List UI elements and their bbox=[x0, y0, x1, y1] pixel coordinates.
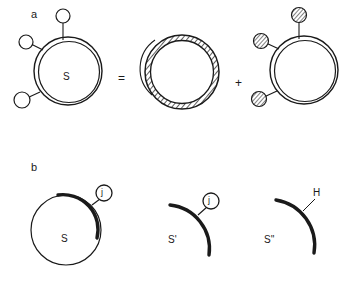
equals-sign: = bbox=[118, 72, 125, 84]
panel-letter-b: b bbox=[31, 162, 37, 173]
panel-b-bold-arc-s-prime bbox=[170, 205, 209, 255]
panel-b-term-surface-s bbox=[31, 185, 112, 265]
node-hatched-top bbox=[292, 8, 307, 23]
panel-b-node-j-2 bbox=[203, 193, 219, 209]
label-surface-s-prime: S' bbox=[168, 235, 177, 245]
node-label-j-2: j bbox=[208, 196, 210, 205]
label-surface-s-panel-b: S bbox=[61, 234, 68, 244]
atom-label-h: H bbox=[313, 188, 320, 198]
node-open-lower-left bbox=[14, 92, 30, 108]
panel-b-j-stem-2 bbox=[198, 207, 207, 215]
panel-b-term-surface-s-double-prime bbox=[276, 199, 315, 253]
inner-ring-2 bbox=[275, 41, 336, 102]
panel-b-bold-arc-s-double-prime bbox=[276, 200, 315, 253]
panel-b-node-j-1 bbox=[96, 185, 112, 201]
panel-a-term-hatched-ring bbox=[140, 30, 225, 115]
node-hatched-upper-left bbox=[254, 34, 269, 49]
label-surface-s-panel-a: S bbox=[63, 72, 70, 82]
panel-b-term-surface-s-prime bbox=[170, 193, 219, 255]
node-open-upper-left bbox=[19, 35, 33, 49]
panel-letter-a: a bbox=[31, 9, 37, 20]
annulus-hatch-fill bbox=[140, 30, 225, 115]
panel-a-term-decorated-surface bbox=[252, 8, 339, 107]
figure-canvas: a S = + b j S j S' H S'' bbox=[0, 0, 349, 281]
node-label-j-1: j bbox=[101, 188, 103, 197]
panel-b-h-stem bbox=[303, 199, 315, 211]
plus-sign: + bbox=[235, 77, 242, 89]
outer-ring-2 bbox=[270, 36, 338, 104]
node-open-top bbox=[56, 9, 70, 23]
node-hatched-lower-left bbox=[252, 92, 267, 107]
label-surface-s-double-prime: S'' bbox=[264, 235, 275, 245]
panel-a-term-surface-s bbox=[14, 9, 102, 108]
